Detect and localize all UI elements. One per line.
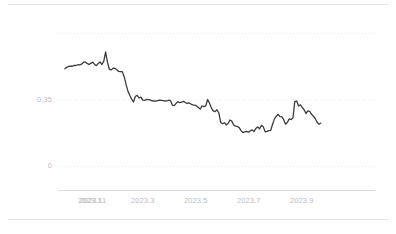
series-line — [65, 52, 321, 133]
y-axis-tick-label: 0.35 — [37, 95, 52, 104]
x-axis-tick-label: 2023.3 — [131, 196, 155, 205]
x-axis-tick-label: 2023.7 — [237, 196, 261, 205]
chart-card: 0.350 2023.12023.32023.52023.72023.92023… — [0, 0, 396, 234]
y-axis-tick-label: 0 — [48, 161, 52, 170]
gridlines-group — [56, 34, 375, 167]
x-axis-tick-label: 2023.9 — [290, 196, 314, 205]
x-axis-tick-label: 2023.5 — [184, 196, 208, 205]
x-axis-tick-label: 2023.11 — [79, 196, 106, 205]
